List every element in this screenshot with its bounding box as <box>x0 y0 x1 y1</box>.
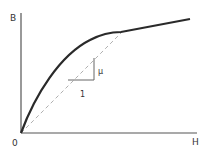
y-axis-label: B <box>10 13 16 23</box>
origin-label: 0 <box>12 138 18 148</box>
slope-rise-label: μ <box>98 67 103 76</box>
slope-triangle <box>68 58 94 80</box>
secant-line <box>21 33 121 133</box>
x-axis-label: H <box>192 137 199 147</box>
slope-run-label: 1 <box>80 90 85 99</box>
bh-diagram: B H 0 μ 1 <box>0 0 208 151</box>
bh-curve <box>21 19 190 133</box>
